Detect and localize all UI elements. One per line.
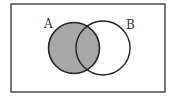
venn-diagram: A B — [0, 0, 173, 97]
set-a-label: A — [43, 17, 53, 31]
set-b-label: B — [126, 18, 135, 32]
